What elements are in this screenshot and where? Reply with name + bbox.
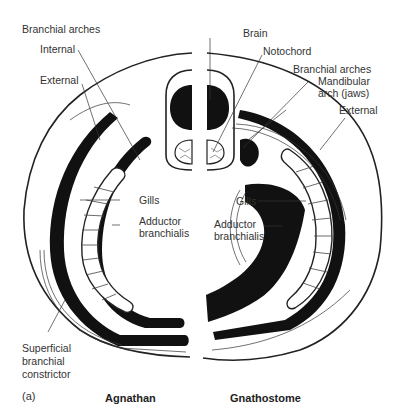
label-adductor-right-1: Adductor <box>214 218 256 230</box>
label-internal: Internal <box>40 43 75 55</box>
label-gills-right: Gills <box>236 195 256 207</box>
label-mandibular-2: arch (jaws) <box>318 87 369 99</box>
caption-agnathan: Agnathan <box>105 392 156 404</box>
mandibular-arch <box>240 139 259 167</box>
label-superficial-1: Superficial <box>22 342 71 354</box>
panel-label: (a) <box>22 390 35 402</box>
label-notochord: Notochord <box>263 45 311 57</box>
gills-left <box>82 168 133 312</box>
label-superficial-3: constrictor <box>22 368 70 380</box>
label-superficial-2: branchial <box>22 355 65 367</box>
notochord-left <box>175 140 192 164</box>
notochord-right <box>207 140 224 164</box>
label-mandibular-1: Mandibular <box>318 75 370 87</box>
caption-gnathostome: Gnathostome <box>230 392 301 404</box>
label-brain: Brain <box>243 27 268 39</box>
label-adductor-left-1: Adductor <box>139 215 181 227</box>
label-branchial-arches-right: Branchial arches <box>293 63 371 75</box>
label-external-left: External <box>40 74 79 86</box>
label-branchial-arches-left: Branchial arches <box>22 23 100 35</box>
brain-left <box>170 85 192 130</box>
label-adductor-left-2: branchialis <box>139 227 189 239</box>
label-adductor-right-2: branchialis <box>214 230 264 242</box>
label-external-right: External <box>339 104 378 116</box>
label-gills-left: Gills <box>139 194 159 206</box>
